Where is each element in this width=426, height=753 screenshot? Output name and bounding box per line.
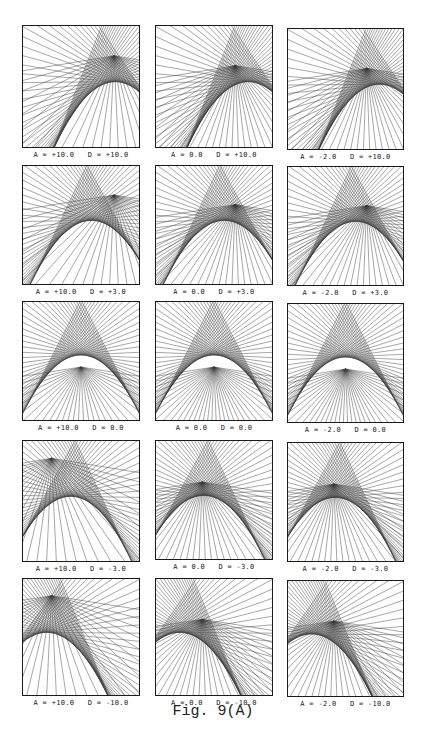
plot-panel: [22, 165, 140, 285]
plot-panel: [155, 578, 273, 696]
envelope-plot: [155, 165, 273, 285]
plot-panel: [22, 25, 140, 148]
envelope-plot: [22, 440, 140, 562]
plot-panel: [287, 580, 404, 697]
plot-frame: [288, 304, 404, 423]
plot-panel: [155, 25, 273, 148]
plot-panel: [22, 301, 140, 421]
plot-panel: [22, 578, 140, 696]
panel-label: A = 0.0 D = 0.0: [155, 424, 273, 432]
plot-panel: [155, 165, 273, 285]
envelope-plot: [155, 301, 273, 421]
panel-label: A = +10.0 D = +3.0: [22, 288, 140, 296]
plot-panel: [287, 28, 404, 150]
panel-label: A = 0.0 D = -3.0: [155, 563, 273, 571]
envelope-plot: [287, 28, 404, 150]
panel-label: A = 0.0 D = +10.0: [155, 151, 273, 159]
plot-panel: [155, 440, 273, 560]
envelope-plot: [22, 165, 140, 285]
plot-panel: [287, 442, 404, 562]
panel-label: A = -2.0 D = 0.0: [287, 426, 404, 434]
plot-panel: [155, 301, 273, 421]
envelope-plot: [155, 440, 273, 560]
panel-label: A = -2.0 D = -3.0: [287, 565, 404, 573]
figure-caption: Fig. 9(A): [0, 703, 426, 720]
panel-label: A = 0.0 D = +3.0: [155, 288, 273, 296]
panel-label: A = -2.0 D = +10.0: [287, 153, 404, 161]
panel-label: A = -2.0 D = +3.0: [287, 289, 404, 297]
plot-panel: [287, 303, 404, 423]
envelope-plot: [287, 580, 404, 697]
panel-label: A = +10.0 D = 0.0: [22, 424, 140, 432]
envelope-plot: [22, 25, 140, 148]
envelope-plot: [287, 166, 404, 286]
plot-frame: [156, 302, 273, 421]
envelope-plot: [22, 578, 140, 696]
panel-label: A = +10.0 D = -3.0: [22, 565, 140, 573]
envelope-plot: [155, 578, 273, 696]
plot-frame: [23, 302, 140, 421]
plot-panel: [22, 440, 140, 562]
panel-label: A = +10.0 D = +10.0: [22, 151, 140, 159]
envelope-plot: [155, 25, 273, 148]
envelope-plot: [287, 303, 404, 423]
plot-panel: [287, 166, 404, 286]
envelope-plot: [22, 301, 140, 421]
envelope-plot: [287, 442, 404, 562]
